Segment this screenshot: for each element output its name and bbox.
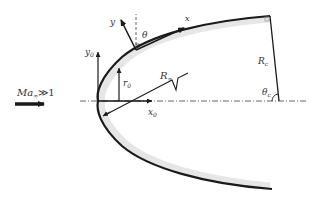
x0-label: x0 xyxy=(148,107,157,118)
theta-c-arc xyxy=(272,94,278,101)
rc-line xyxy=(270,16,279,101)
blunt-body-diagram: Ma∞≫1 y0 r0 x0 R∞ y x θ Rc θc xyxy=(0,0,324,198)
local-y-label: y xyxy=(109,17,116,27)
r-infinity-line xyxy=(105,73,188,115)
body-shading xyxy=(102,19,270,186)
body-contour xyxy=(98,16,272,189)
local-x-label: x xyxy=(185,14,190,23)
theta-c-label: θc xyxy=(262,87,271,98)
theta-label: θ xyxy=(142,30,148,40)
local-y-axis xyxy=(121,20,136,50)
rc-label: Rc xyxy=(257,56,269,67)
r0-label: r0 xyxy=(123,78,131,89)
y0-label: y0 xyxy=(84,47,94,58)
freestream-label: Ma∞≫1 xyxy=(16,87,55,99)
r-infinity-label: R∞ xyxy=(159,70,173,82)
